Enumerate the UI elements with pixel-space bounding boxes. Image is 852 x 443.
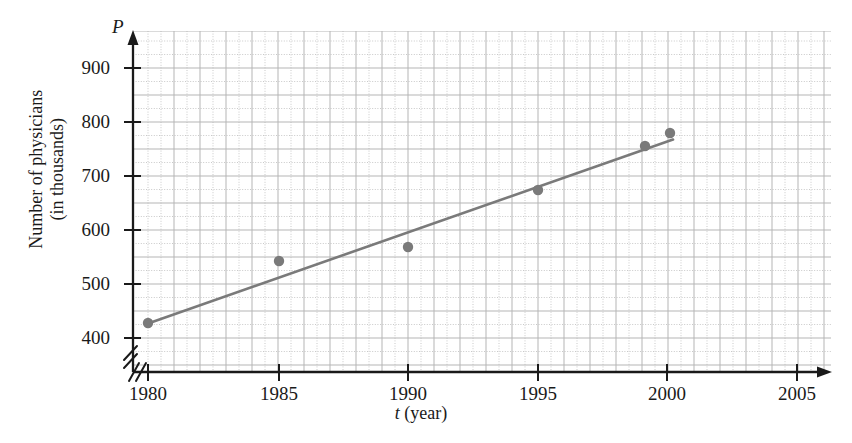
x-tick-label-2005: 2005 — [757, 384, 837, 403]
y-axis-title-line2: (in thousands) — [47, 59, 68, 279]
data-point — [533, 185, 543, 195]
y-axis-arrowhead — [128, 30, 139, 45]
x-axis-title-variable: t — [395, 403, 400, 423]
x-tick-label-1985: 1985 — [239, 384, 319, 403]
x-tick-label-2000: 2000 — [627, 384, 707, 403]
x-tick-label-1990: 1990 — [368, 384, 448, 403]
y-tick-label-400: 400 — [50, 328, 110, 347]
data-point — [640, 141, 650, 151]
data-point — [143, 318, 153, 328]
y-axis-title: Number of physicians (in thousands) — [26, 59, 68, 279]
x-tick-label-1995: 1995 — [498, 384, 578, 403]
physicians-scatter-figure: P 900 800 700 600 500 400 1980 1985 1990… — [0, 0, 852, 443]
x-axis-title-units: (year) — [404, 403, 447, 423]
axes — [133, 40, 822, 372]
chart-canvas — [0, 0, 852, 443]
trend-line — [148, 140, 673, 324]
data-point — [665, 128, 675, 138]
minor-gridlines — [133, 31, 831, 372]
x-tick-label-1980: 1980 — [108, 384, 188, 403]
x-axis-title: t (year) — [291, 404, 551, 422]
y-axis-variable-label: P — [112, 17, 124, 36]
major-gridlines — [133, 31, 831, 372]
data-point — [403, 242, 413, 252]
data-point — [274, 256, 284, 266]
y-axis-title-line1: Number of physicians — [26, 90, 46, 249]
